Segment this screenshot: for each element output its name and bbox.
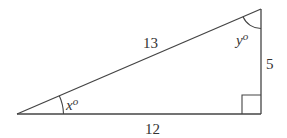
triangle-svg: 13 5 12 xo yo xyxy=(0,0,287,138)
triangle-diagram: 13 5 12 xo yo xyxy=(0,0,287,138)
angle-x-degree: o xyxy=(73,95,79,107)
hypotenuse-edge xyxy=(17,9,261,114)
angle-arc-x xyxy=(59,96,63,114)
angle-arc-y xyxy=(243,17,261,29)
hypotenuse-label: 13 xyxy=(143,35,158,51)
angle-y-degree: o xyxy=(243,30,249,42)
horizontal-side-label: 12 xyxy=(145,121,160,137)
angle-y-var: y xyxy=(234,32,243,48)
angle-y-label: yo xyxy=(234,30,249,48)
angle-x-label: xo xyxy=(65,95,79,113)
right-angle-marker xyxy=(242,95,261,114)
vertical-side-label: 5 xyxy=(266,56,274,72)
